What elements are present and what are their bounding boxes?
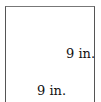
side-length-label: 9 in. <box>66 47 95 60</box>
bottom-length-label: 9 in. <box>37 84 66 97</box>
